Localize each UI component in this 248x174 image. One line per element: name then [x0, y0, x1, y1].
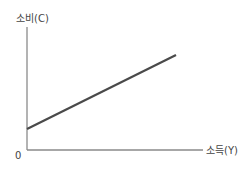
- y-axis-label: 소비(C): [16, 13, 49, 24]
- x-axis-label: 소득(Y): [206, 145, 238, 156]
- consumption-function-chart: 소비(C) 소득(Y) 0: [0, 0, 248, 174]
- consumption-line: [27, 55, 176, 129]
- origin-label: 0: [15, 150, 21, 161]
